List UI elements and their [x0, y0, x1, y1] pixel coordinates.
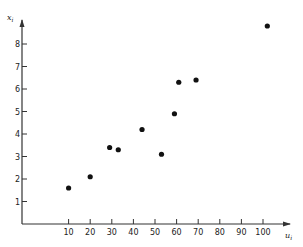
y-tick-label: 6 — [15, 85, 20, 94]
data-point — [172, 111, 177, 116]
data-point — [176, 80, 181, 85]
x-tick-label: 60 — [172, 228, 182, 237]
axes: 12345678102030405060708090100xiui — [7, 13, 292, 241]
data-point — [159, 152, 164, 157]
x-tick-label: 80 — [215, 228, 225, 237]
y-tick-label: 7 — [15, 63, 20, 72]
data-point — [139, 127, 144, 132]
y-tick-label: 5 — [15, 108, 20, 117]
y-tick-label: 3 — [15, 153, 20, 162]
y-tick-label: 1 — [15, 198, 20, 207]
y-tick-label: 8 — [15, 40, 20, 49]
data-point — [66, 185, 71, 190]
x-tick-label: 50 — [150, 228, 160, 237]
x-tick-label: 90 — [236, 228, 246, 237]
y-tick-label: 4 — [15, 130, 20, 139]
x-tick-label: 20 — [85, 228, 95, 237]
data-points — [66, 23, 270, 190]
data-point — [265, 23, 270, 28]
data-point — [193, 77, 198, 82]
data-point — [88, 174, 93, 179]
data-point — [116, 147, 121, 152]
x-tick-label: 40 — [128, 228, 138, 237]
x-tick-label: 30 — [107, 228, 117, 237]
x-tick-label: 100 — [255, 228, 270, 237]
x-tick-label: 10 — [64, 228, 74, 237]
x-tick-label: 70 — [193, 228, 203, 237]
x-axis-arrow-icon — [283, 222, 291, 227]
y-axis-arrow-icon — [20, 19, 25, 27]
data-point — [107, 145, 112, 150]
y-tick-label: 2 — [15, 175, 20, 184]
x-axis-label: ui — [285, 231, 292, 241]
y-axis-label: xi — [7, 13, 14, 23]
scatter-plot: 12345678102030405060708090100xiui — [0, 0, 303, 247]
